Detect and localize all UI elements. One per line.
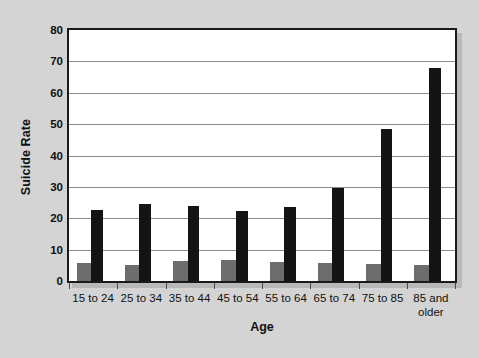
y-tick-label-80: 80 — [33, 24, 63, 36]
x-tick-mark — [455, 283, 456, 289]
bar — [318, 263, 332, 281]
bar — [173, 261, 187, 281]
x-tick-label: 65 to 74 — [310, 292, 358, 306]
y-tick-label-0: 0 — [33, 275, 63, 287]
x-tick-label: 75 to 85 — [359, 292, 407, 306]
x-tick-mark — [310, 283, 311, 289]
y-tick-label-50: 50 — [33, 118, 63, 130]
x-tick-mark — [407, 283, 408, 289]
bar — [414, 265, 428, 281]
bar — [188, 206, 200, 281]
bar-group — [407, 30, 455, 281]
bar — [429, 68, 441, 281]
suicide-rate-bar-chart: Suicide Rate 80706050403020100 15 to 242… — [0, 0, 479, 358]
bar-group — [117, 30, 165, 281]
x-tick-mark — [359, 283, 360, 289]
bar — [77, 263, 91, 282]
bar — [236, 211, 248, 281]
y-tick-label-40: 40 — [33, 150, 63, 162]
x-tick-label: 55 to 64 — [262, 292, 310, 306]
x-axis-tick-marks — [67, 283, 457, 290]
bar-group — [359, 30, 407, 281]
y-tick-label-10: 10 — [33, 244, 63, 256]
x-tick-label: 45 to 54 — [214, 292, 262, 306]
x-tick-mark — [69, 283, 70, 289]
bar — [221, 260, 235, 281]
y-tick-label-30: 30 — [33, 181, 63, 193]
plot-area — [67, 28, 457, 283]
x-tick-mark — [117, 283, 118, 289]
x-tick-mark — [262, 283, 263, 289]
y-tick-label-20: 20 — [33, 212, 63, 224]
x-axis-title: Age — [67, 320, 457, 334]
bars-layer — [69, 30, 455, 281]
bar — [366, 264, 380, 281]
bar-group — [166, 30, 214, 281]
x-tick-label: 15 to 24 — [69, 292, 117, 306]
x-tick-mark — [166, 283, 167, 289]
bar-group — [69, 30, 117, 281]
bar — [91, 210, 103, 281]
y-axis-tick-labels: 80706050403020100 — [31, 28, 63, 283]
bar — [270, 262, 284, 281]
bar — [381, 129, 393, 281]
bar — [332, 188, 344, 281]
y-tick-label-70: 70 — [33, 55, 63, 67]
bar-group — [310, 30, 358, 281]
y-tick-label-60: 60 — [33, 87, 63, 99]
bar-group — [214, 30, 262, 281]
bar — [125, 265, 139, 281]
x-tick-label: 85 and older — [407, 292, 455, 319]
x-tick-label: 25 to 34 — [117, 292, 165, 306]
bar — [139, 204, 151, 281]
x-tick-label: 35 to 44 — [166, 292, 214, 306]
x-tick-mark — [214, 283, 215, 289]
bar-group — [262, 30, 310, 281]
bar — [284, 207, 296, 281]
